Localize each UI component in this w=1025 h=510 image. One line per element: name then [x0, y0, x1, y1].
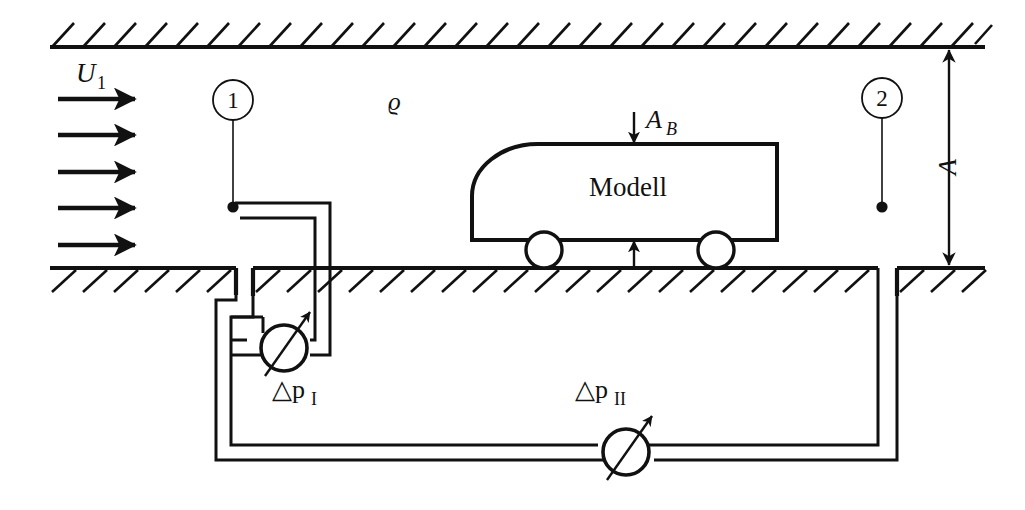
inflow-velocity-label: U [76, 58, 97, 88]
frontal-area-annotation: A B [634, 105, 677, 143]
diagram-canvas: U 1 ϱ 1 2 A Modell A B [0, 0, 1025, 510]
station-1-marker: 1 [213, 80, 253, 213]
frontal-area-sub: B [666, 119, 677, 139]
bottom-wall-hatching [52, 270, 986, 292]
inflow-velocity-sub: 1 [97, 73, 106, 93]
delta-p-2-sub: II [614, 389, 626, 409]
station-2-number: 2 [876, 86, 888, 111]
model-label: Modell [589, 172, 667, 202]
delta-p-1-sub: I [311, 389, 317, 409]
station-2-marker: 2 [862, 78, 902, 213]
gauge-1-left-branch [231, 340, 262, 355]
station-2-point [876, 201, 887, 212]
tunnel-height-dimension: A [933, 50, 962, 265]
wind-tunnel-diagram: U 1 ϱ 1 2 A Modell A B [0, 0, 1025, 510]
station-1-number: 1 [227, 88, 239, 113]
bottom-wall [50, 268, 986, 296]
density-label: ϱ [388, 88, 401, 115]
tunnel-height-label: A [933, 159, 962, 177]
inflow-arrows [58, 99, 135, 245]
delta-p-1-label: △p [272, 375, 305, 404]
delta-p-2-label: △p [575, 375, 608, 404]
top-wall [50, 23, 992, 47]
wheel-rear [698, 232, 734, 268]
static-tap-tube-station-2 [640, 268, 897, 460]
vehicle-model: Modell [472, 144, 777, 268]
top-wall-hatching [52, 23, 992, 47]
gauge-delta-p-2: △p II [575, 375, 652, 480]
frontal-area-label: A [644, 105, 662, 134]
gauge-delta-p-1: △p I [261, 312, 317, 409]
wheel-front [526, 232, 562, 268]
